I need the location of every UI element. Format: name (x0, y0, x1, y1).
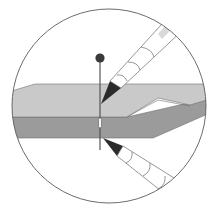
pin-head-icon (95, 53, 104, 62)
lower-pencil (103, 138, 182, 198)
illustration-canvas (0, 0, 218, 213)
pencil-body (110, 14, 185, 88)
pin-marking-illustration: Marking both fabric layers with a pin an… (0, 0, 218, 213)
pencil-body (117, 146, 182, 198)
pin-hole (99, 118, 102, 128)
